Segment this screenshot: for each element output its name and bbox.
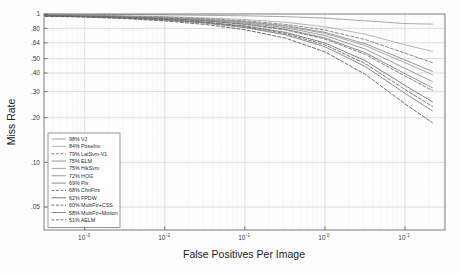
x-tick-exponent: -1 <box>246 233 251 238</box>
y-tick-label: .50 <box>31 55 40 62</box>
legend-label-4[interactable]: 75% ELM <box>69 158 92 164</box>
roc-curve-10 <box>45 16 432 107</box>
x-tick-label: 10 <box>318 234 326 241</box>
plot-svg: 10-310-210-1100101 1.80.64.50.40.30.20.1… <box>0 0 460 273</box>
y-tick-label: .05 <box>31 203 40 210</box>
x-tick-label: 10 <box>78 234 86 241</box>
legend-label-10[interactable]: 60% MultiFtr+CSS <box>69 202 113 208</box>
legend-label-8[interactable]: 68% ChnFtrs <box>69 187 100 193</box>
x-tick-exponent: -2 <box>166 233 171 238</box>
y-tick-label: .40 <box>31 69 40 76</box>
roc-curve-11 <box>45 16 432 111</box>
legend-label-6[interactable]: 72% HOG <box>69 173 93 179</box>
y-axis-label: Miss Rate <box>5 99 17 146</box>
legend-label-3[interactable]: 79% LatSvm-V1 <box>69 151 107 157</box>
legend-label-2[interactable]: 84% PoseInv <box>69 143 101 149</box>
chart-legend[interactable]: 98% VJ84% PoseInv79% LatSvm-V175% ELM75%… <box>48 133 120 228</box>
x-axis-label: False Positives Per Image <box>183 248 305 260</box>
legend-label-11[interactable]: 58% MultiFtr+Motion <box>69 210 118 216</box>
x-tick-exponent: 0 <box>327 233 330 238</box>
y-tick-label: .64 <box>31 39 40 46</box>
roc-chart-figure: 10-310-210-1100101 1.80.64.50.40.30.20.1… <box>0 0 460 273</box>
y-tick-label: 1 <box>36 10 40 17</box>
legend-label-1[interactable]: 98% VJ <box>69 136 88 142</box>
x-tick-label: 10 <box>238 234 246 241</box>
x-tick-label: 10 <box>158 234 166 241</box>
curve-layer <box>45 14 432 122</box>
legend-label-12[interactable]: 51% AELM <box>69 217 95 223</box>
x-tick-exponent: 1 <box>407 233 410 238</box>
legend-label-9[interactable]: 62% FPDW <box>69 195 97 201</box>
x-tick-label: 10 <box>398 234 406 241</box>
legend-label-5[interactable]: 75% HikSvm <box>69 165 100 171</box>
legend-label-7[interactable]: 69% Pls <box>69 180 89 186</box>
x-tick-exponent: -3 <box>86 233 91 238</box>
y-tick-label: .30 <box>31 88 40 95</box>
x-tick-layer: 10-310-210-1100101 <box>78 227 410 242</box>
y-tick-layer: 1.80.64.50.40.30.20.10.05 <box>31 10 48 210</box>
y-tick-label: .80 <box>31 25 40 32</box>
y-tick-label: .20 <box>31 114 40 121</box>
y-tick-label: .10 <box>31 159 40 166</box>
